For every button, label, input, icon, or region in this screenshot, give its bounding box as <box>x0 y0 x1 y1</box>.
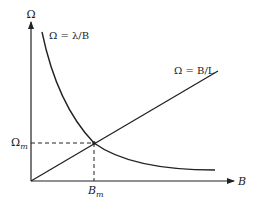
diagram-canvas: Ω B Ω = λ/B Ω = B/L Ωm Bm <box>0 0 255 206</box>
y-axis-label: Ω <box>26 8 35 21</box>
b-m-label: Bm <box>87 184 104 199</box>
hyperbola-curve <box>42 32 215 170</box>
omega-m-label: Ωm <box>11 136 28 151</box>
intersection-point <box>92 141 96 145</box>
x-axis-label: B <box>237 175 246 188</box>
line-label: Ω = B/L <box>174 65 215 76</box>
hyperbola-label: Ω = λ/B <box>49 30 89 41</box>
